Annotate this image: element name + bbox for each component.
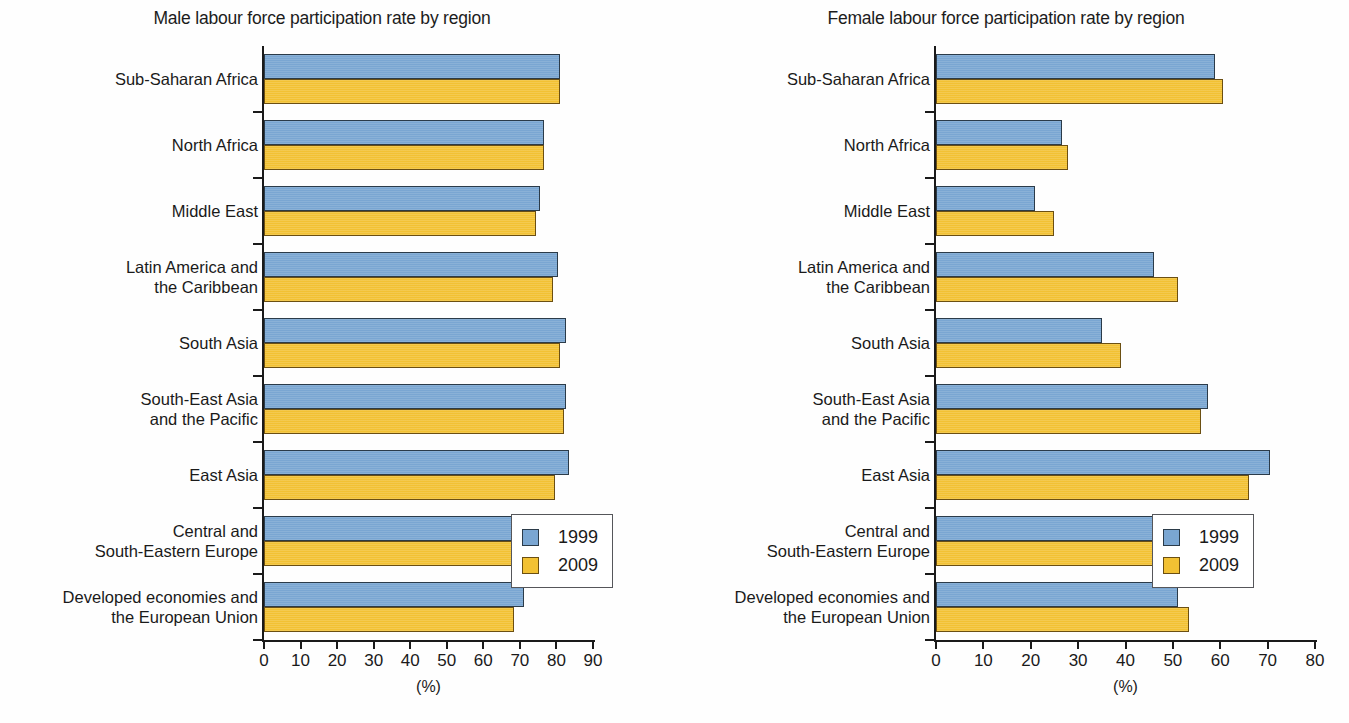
bar-2009-sub-saharan-africa bbox=[264, 79, 560, 104]
x-axis-tick-label: 0 bbox=[931, 651, 940, 671]
bar-2009-middle-east bbox=[264, 211, 536, 236]
bar-2009-south-asia bbox=[936, 343, 1121, 368]
y-axis-category-label: Sub-Saharan Africa bbox=[115, 69, 258, 89]
x-axis-tick-label: 10 bbox=[291, 651, 310, 671]
legend-label: 1999 bbox=[558, 527, 598, 548]
x-axis-tick-label: 20 bbox=[1021, 651, 1040, 671]
bar-2009-central-and bbox=[264, 541, 514, 566]
y-axis-tick bbox=[925, 309, 934, 311]
y-axis-tick bbox=[925, 639, 934, 641]
x-axis-tick bbox=[1172, 640, 1174, 649]
bar-1999-south-east-asia bbox=[264, 384, 566, 409]
y-axis-category-label: East Asia bbox=[861, 465, 930, 485]
bar-2009-north-africa bbox=[936, 145, 1068, 170]
bar-1999-east-asia bbox=[936, 450, 1270, 475]
y-axis-tick bbox=[253, 441, 262, 443]
y-axis-tick bbox=[253, 243, 262, 245]
x-axis-tick-label: 80 bbox=[1306, 651, 1325, 671]
bar-1999-latin-america-and bbox=[936, 252, 1154, 277]
x-axis-tick bbox=[1077, 640, 1079, 649]
bar-2009-central-and bbox=[936, 541, 1175, 566]
x-axis-tick bbox=[982, 640, 984, 649]
bar-1999-central-and bbox=[936, 516, 1168, 541]
y-axis-tick bbox=[925, 441, 934, 443]
x-axis-tick-label: 30 bbox=[1069, 651, 1088, 671]
x-axis-unit-label: (%) bbox=[416, 678, 441, 696]
legend-item[interactable]: 2009 bbox=[1163, 551, 1239, 579]
bar-1999-developed-economies-and bbox=[264, 582, 524, 607]
x-axis-tick-label: 90 bbox=[584, 651, 603, 671]
legend-item[interactable]: 1999 bbox=[522, 523, 598, 551]
bar-1999-south-east-asia bbox=[936, 384, 1208, 409]
bar-2009-north-africa bbox=[264, 145, 544, 170]
y-axis-tick bbox=[925, 573, 934, 575]
y-axis-category-label: East Asia bbox=[189, 465, 258, 485]
y-axis-category-label: North Africa bbox=[844, 135, 930, 155]
legend-label: 2009 bbox=[1199, 555, 1239, 576]
x-axis-tick-label: 70 bbox=[1258, 651, 1277, 671]
y-axis-category-label: Middle East bbox=[172, 201, 258, 221]
bar-1999-middle-east bbox=[264, 186, 540, 211]
x-axis-tick bbox=[1219, 640, 1221, 649]
bar-1999-south-asia bbox=[936, 318, 1102, 343]
bar-2009-developed-economies-and bbox=[264, 607, 514, 632]
legend-label: 1999 bbox=[1199, 527, 1239, 548]
bar-1999-north-africa bbox=[936, 120, 1062, 145]
bar-1999-latin-america-and bbox=[264, 252, 558, 277]
legend-item[interactable]: 2009 bbox=[522, 551, 598, 579]
x-axis-tick-label: 50 bbox=[1163, 651, 1182, 671]
chart-title-female: Female labour force participation rate b… bbox=[698, 8, 1314, 29]
x-axis-unit-label: (%) bbox=[1113, 678, 1138, 696]
x-axis-tick bbox=[1314, 640, 1316, 649]
legend-item[interactable]: 1999 bbox=[1163, 523, 1239, 551]
x-axis-tick-label: 40 bbox=[401, 651, 420, 671]
x-axis-tick bbox=[935, 640, 937, 649]
bar-2009-south-east-asia bbox=[936, 409, 1201, 434]
legend-swatch-icon bbox=[1163, 529, 1180, 546]
y-axis-tick bbox=[253, 375, 262, 377]
x-axis-tick-label: 60 bbox=[474, 651, 493, 671]
y-axis-tick bbox=[253, 309, 262, 311]
x-axis-tick bbox=[1030, 640, 1032, 649]
bar-1999-east-asia bbox=[264, 450, 569, 475]
legend-swatch-icon bbox=[522, 529, 539, 546]
y-axis-category-label: Latin America and the Caribbean bbox=[126, 257, 258, 297]
y-axis-category-label: South-East Asia and the Pacific bbox=[813, 389, 930, 429]
bar-2009-developed-economies-and bbox=[936, 607, 1189, 632]
bar-2009-sub-saharan-africa bbox=[936, 79, 1223, 104]
bar-2009-south-asia bbox=[264, 343, 560, 368]
bar-1999-middle-east bbox=[936, 186, 1035, 211]
x-axis-tick bbox=[555, 640, 557, 649]
y-axis-category-label: South-East Asia and the Pacific bbox=[141, 389, 258, 429]
x-axis-tick-label: 10 bbox=[974, 651, 993, 671]
x-axis-tick bbox=[1125, 640, 1127, 649]
bar-1999-sub-saharan-africa bbox=[936, 54, 1215, 79]
x-axis-tick-label: 40 bbox=[1116, 651, 1135, 671]
x-axis-tick-label: 50 bbox=[437, 651, 456, 671]
bar-2009-east-asia bbox=[936, 475, 1249, 500]
x-axis-tick bbox=[519, 640, 521, 649]
x-axis-tick bbox=[1267, 640, 1269, 649]
y-axis-tick bbox=[253, 507, 262, 509]
y-axis-category-label: Middle East bbox=[844, 201, 930, 221]
y-axis-tick bbox=[925, 177, 934, 179]
y-axis-category-label: North Africa bbox=[172, 135, 258, 155]
x-axis-tick bbox=[300, 640, 302, 649]
y-axis-tick bbox=[253, 639, 262, 641]
bar-1999-developed-economies-and bbox=[936, 582, 1178, 607]
chart-title-male: Male labour force participation rate by … bbox=[14, 8, 630, 29]
bar-1999-south-asia bbox=[264, 318, 566, 343]
x-axis-tick bbox=[482, 640, 484, 649]
y-axis-category-label: Central and South-Eastern Europe bbox=[95, 521, 258, 561]
bar-2009-east-asia bbox=[264, 475, 555, 500]
x-axis-line bbox=[262, 640, 595, 642]
legend-label: 2009 bbox=[558, 555, 598, 576]
y-axis-tick bbox=[253, 177, 262, 179]
x-axis-tick bbox=[446, 640, 448, 649]
y-axis-category-label: Developed economies and the European Uni… bbox=[735, 587, 930, 627]
x-axis-tick-label: 60 bbox=[1211, 651, 1230, 671]
bar-2009-south-east-asia bbox=[264, 409, 564, 434]
y-axis-category-label: Latin America and the Caribbean bbox=[798, 257, 930, 297]
y-axis-category-label: Sub-Saharan Africa bbox=[787, 69, 930, 89]
x-axis-tick bbox=[409, 640, 411, 649]
